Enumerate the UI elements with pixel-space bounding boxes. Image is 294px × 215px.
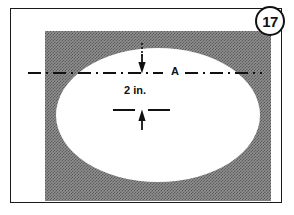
- figure-frame: [10, 8, 282, 203]
- figure-number-badge: 17: [255, 6, 285, 36]
- shaded-background-panel: [45, 31, 271, 201]
- dimension-value-label: 2 in.: [124, 85, 146, 96]
- figure-root: A 2 in. 17: [0, 0, 294, 215]
- ellipse-part-outline: [56, 48, 260, 182]
- centerline-label-a: A: [171, 66, 179, 77]
- figure-number-text: 17: [262, 14, 278, 29]
